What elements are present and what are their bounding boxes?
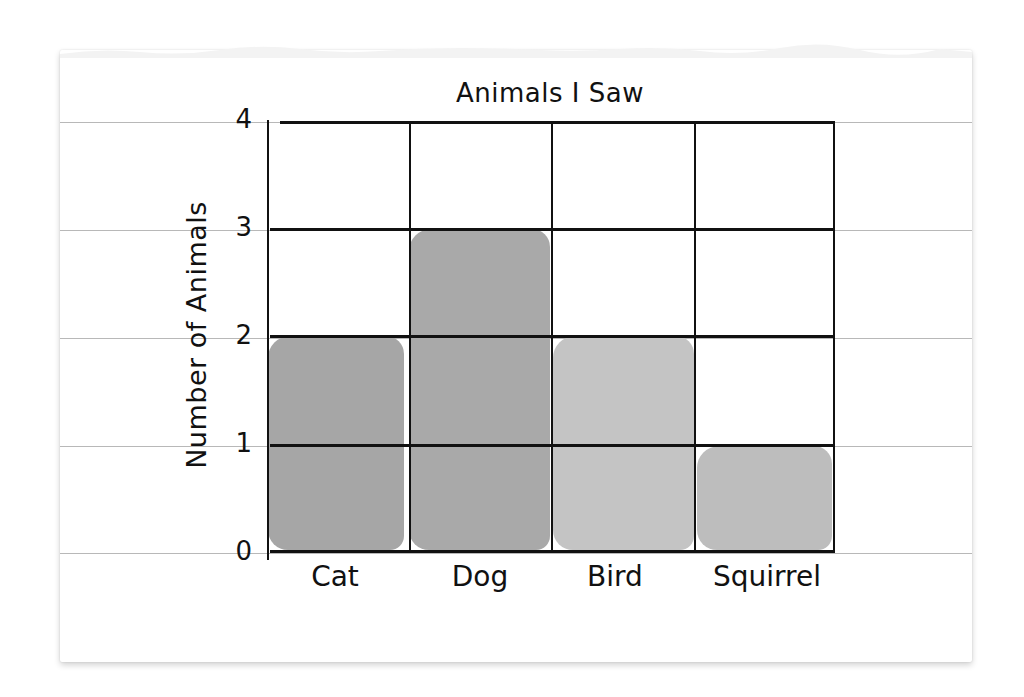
grid-line-4 (280, 121, 834, 124)
y-tick-0: 0 (222, 536, 252, 566)
y-axis-line (267, 120, 269, 560)
y-tick-1: 1 (222, 428, 252, 458)
bar-squirrel (697, 446, 832, 550)
bar-dog (409, 229, 550, 550)
chart-title: Animals I Saw (400, 78, 700, 108)
bar-bird (553, 336, 694, 550)
grid-divider (409, 121, 411, 553)
x-tick-squirrel: Squirrel (697, 560, 837, 593)
y-tick-2: 2 (222, 320, 252, 350)
y-tick-4: 4 (222, 104, 252, 134)
ruled-line (60, 553, 972, 554)
torn-paper-edge (60, 40, 972, 58)
grid-divider (551, 121, 553, 553)
grid-divider (833, 121, 835, 553)
x-tick-bird: Bird (545, 560, 685, 593)
y-tick-3: 3 (222, 212, 252, 242)
grid-divider (694, 121, 696, 553)
y-axis-label: Number of Animals (181, 201, 212, 469)
x-tick-dog: Dog (410, 560, 550, 593)
bar-cat (268, 336, 404, 550)
x-tick-cat: Cat (265, 560, 405, 593)
